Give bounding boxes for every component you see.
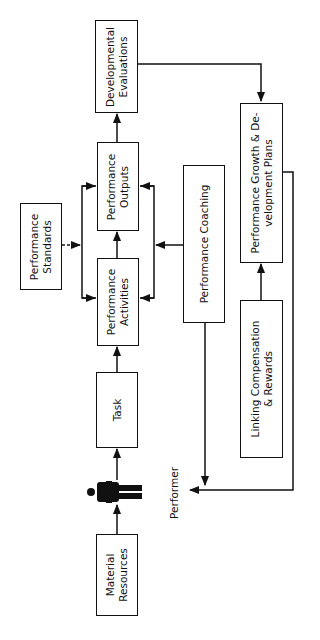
node-label: Activities	[118, 278, 130, 326]
node-label: Evaluations	[117, 36, 129, 97]
node-label: Performance	[105, 269, 117, 336]
node-label: Standards	[41, 220, 53, 273]
node-label: Performance Growth & De-	[249, 112, 261, 253]
node-label: velopment Plans	[262, 139, 274, 226]
node-label: Material	[104, 554, 116, 597]
node-compensation-rewards: Linking Compensation& Rewards	[240, 300, 283, 458]
node-performance-coaching: Performance Coaching	[183, 165, 225, 323]
node-performance-outputs: PerformanceOutputs	[97, 142, 139, 231]
node-label: Performance	[105, 153, 117, 220]
node-growth-development-plans: Performance Growth & De-velopment Plans	[240, 103, 283, 263]
node-label: Performance	[28, 213, 40, 280]
node-developmental-evaluations: DevelopmentalEvaluations	[95, 20, 138, 113]
node-label: Performance Coaching	[198, 185, 210, 304]
node-label: & Rewards	[262, 351, 274, 407]
node-label: Developmental	[104, 26, 116, 106]
node-label: Task	[111, 399, 123, 422]
node-label: Resources	[117, 548, 129, 602]
node-label: Linking Compensation	[249, 321, 261, 438]
person-icon	[86, 478, 144, 506]
node-performance-standards: PerformanceStandards	[20, 203, 62, 290]
node-material-resources: MaterialResources	[96, 534, 138, 616]
node-performance-activities: PerformanceActivities	[97, 258, 139, 346]
node-task: Task	[96, 372, 138, 448]
performer-label: Performer	[168, 465, 180, 521]
node-label: Outputs	[118, 166, 130, 208]
